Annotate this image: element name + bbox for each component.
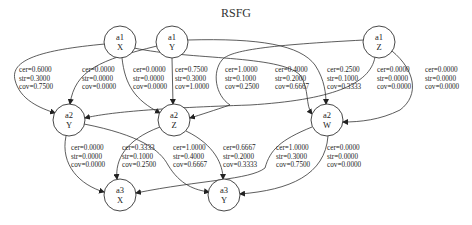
svg-text:a3: a3 xyxy=(220,185,228,195)
svg-text:Z: Z xyxy=(171,120,176,130)
svg-text:str=0.0000: str=0.0000 xyxy=(133,75,164,83)
svg-text:str=0.1000: str=0.1000 xyxy=(327,75,358,83)
svg-text:cer=0.6000: cer=0.6000 xyxy=(19,66,52,74)
svg-text:a3: a3 xyxy=(116,185,124,195)
svg-text:str=0.0000: str=0.0000 xyxy=(377,75,408,83)
svg-text:cer=1.0000: cer=1.0000 xyxy=(225,66,258,74)
svg-text:cer=0.7500: cer=0.7500 xyxy=(175,66,208,74)
svg-text:str=0.3000: str=0.3000 xyxy=(175,75,206,83)
svg-text:cer=0.2500: cer=0.2500 xyxy=(327,66,360,74)
svg-text:str=0.4000: str=0.4000 xyxy=(173,153,204,161)
svg-text:str=0.3000: str=0.3000 xyxy=(19,75,50,83)
svg-text:cer=1.0000: cer=1.0000 xyxy=(173,144,206,152)
svg-text:cer=1.0000: cer=1.0000 xyxy=(276,144,309,152)
node-a2-w[interactable]: a2 W xyxy=(311,104,343,136)
svg-text:cov=1.0000: cov=1.0000 xyxy=(175,83,210,91)
nodes: a1 X a1 Y a1 Z a2 Y a2 Z a2 W xyxy=(53,26,395,211)
svg-text:cov=0.0000: cov=0.0000 xyxy=(327,161,362,169)
svg-text:cov=0.0000: cov=0.0000 xyxy=(425,83,460,91)
svg-text:cov=0.3333: cov=0.3333 xyxy=(223,161,258,169)
svg-text:str=0.1000: str=0.1000 xyxy=(122,153,153,161)
node-a3-y[interactable]: a3 Y xyxy=(208,179,240,211)
rsfg-diagram: RSFG cer=0.6000 str=0.3000 cov=0.7500 ce… xyxy=(0,0,472,225)
edge-label: cer=0.3333 str=0.1000 cov=0.2500 xyxy=(122,144,157,169)
svg-text:str=0.0000: str=0.0000 xyxy=(71,153,102,161)
svg-text:X: X xyxy=(117,42,123,52)
svg-text:a2: a2 xyxy=(170,110,178,120)
svg-text:str=0.3000: str=0.3000 xyxy=(276,153,307,161)
edge-label: cer=0.0000 str=0.0000 cov=0.0000 xyxy=(71,144,106,169)
svg-text:cer=0.6667: cer=0.6667 xyxy=(223,144,256,152)
svg-text:cov=0.3333: cov=0.3333 xyxy=(327,83,362,91)
svg-text:cov=0.7500: cov=0.7500 xyxy=(19,83,54,91)
svg-text:cov=0.0000: cov=0.0000 xyxy=(377,83,412,91)
svg-text:cer=0.0000: cer=0.0000 xyxy=(327,144,360,152)
svg-text:cer=0.3333: cer=0.3333 xyxy=(122,144,155,152)
edge-label: cer=0.6667 str=0.2000 cov=0.3333 xyxy=(223,144,258,169)
svg-text:X: X xyxy=(117,195,123,205)
svg-text:cer=0.0000: cer=0.0000 xyxy=(377,66,410,74)
svg-text:cov=0.0000: cov=0.0000 xyxy=(133,83,168,91)
svg-text:Y: Y xyxy=(221,195,227,205)
edge-label: cer=0.7500 str=0.3000 cov=1.0000 xyxy=(175,66,210,91)
svg-text:cov=0.0000: cov=0.0000 xyxy=(82,83,117,91)
svg-text:a1: a1 xyxy=(116,32,124,42)
edge-label: cer=1.0000 str=0.3000 cov=0.7500 xyxy=(276,144,311,169)
svg-text:cov=0.2500: cov=0.2500 xyxy=(122,161,157,169)
svg-text:str=0.0000: str=0.0000 xyxy=(327,153,358,161)
edge-label: cer=0.0000 str=0.0000 cov=0.0000 xyxy=(327,144,362,169)
svg-text:str=0.2000: str=0.2000 xyxy=(223,153,254,161)
edge-label: cer=1.0000 str=0.4000 cov=0.6667 xyxy=(173,144,208,169)
edge-label: cer=0.0000 str=0.0000 cov=0.0000 xyxy=(82,66,117,91)
svg-text:str=0.0000: str=0.0000 xyxy=(425,75,456,83)
node-a3-x[interactable]: a3 X xyxy=(104,179,136,211)
svg-text:Y: Y xyxy=(66,120,72,130)
svg-text:cer=0.0000: cer=0.0000 xyxy=(82,66,115,74)
svg-text:cov=0.6667: cov=0.6667 xyxy=(275,83,310,91)
edge-label: cer=0.0000 str=0.0000 cov=0.0000 xyxy=(377,66,412,91)
svg-text:a2: a2 xyxy=(65,110,73,120)
svg-text:Y: Y xyxy=(169,42,175,52)
svg-text:cer=0.0000: cer=0.0000 xyxy=(425,66,458,74)
node-a1-x[interactable]: a1 X xyxy=(104,26,136,58)
svg-text:cer=0.4000: cer=0.4000 xyxy=(275,66,308,74)
svg-text:Z: Z xyxy=(376,42,381,52)
node-a1-y[interactable]: a1 Y xyxy=(156,26,188,58)
svg-text:cer=0.0000: cer=0.0000 xyxy=(133,66,166,74)
svg-text:cov=0.7500: cov=0.7500 xyxy=(276,161,311,169)
diagram-title: RSFG xyxy=(221,6,251,20)
svg-text:str=0.1000: str=0.1000 xyxy=(225,75,256,83)
svg-text:a2: a2 xyxy=(323,110,331,120)
edge-label: cer=0.2500 str=0.1000 cov=0.3333 xyxy=(327,66,362,91)
svg-text:cov=0.0000: cov=0.0000 xyxy=(71,161,106,169)
edge-label: cer=0.6000 str=0.3000 cov=0.7500 xyxy=(19,66,54,91)
edge-label: cer=0.0000 str=0.0000 cov=0.0000 xyxy=(425,66,460,91)
svg-text:cer=0.0000: cer=0.0000 xyxy=(71,144,104,152)
svg-text:cov=0.2500: cov=0.2500 xyxy=(225,83,260,91)
edge-label: cer=0.0000 str=0.0000 cov=0.0000 xyxy=(133,66,168,91)
edge-label: cer=1.0000 str=0.1000 cov=0.2500 xyxy=(225,66,260,91)
node-a1-z[interactable]: a1 Z xyxy=(363,26,395,58)
edge-label: cer=0.4000 str=0.2000 cov=0.6667 xyxy=(275,66,310,91)
svg-text:a1: a1 xyxy=(168,32,176,42)
svg-text:a1: a1 xyxy=(375,32,383,42)
svg-text:W: W xyxy=(323,120,331,130)
svg-text:str=0.2000: str=0.2000 xyxy=(275,75,306,83)
node-a2-y[interactable]: a2 Y xyxy=(53,104,85,136)
edge-a1Y-a2Z xyxy=(172,58,173,104)
node-a2-z[interactable]: a2 Z xyxy=(158,104,190,136)
svg-text:cov=0.6667: cov=0.6667 xyxy=(173,161,208,169)
svg-text:str=0.0000: str=0.0000 xyxy=(82,75,113,83)
